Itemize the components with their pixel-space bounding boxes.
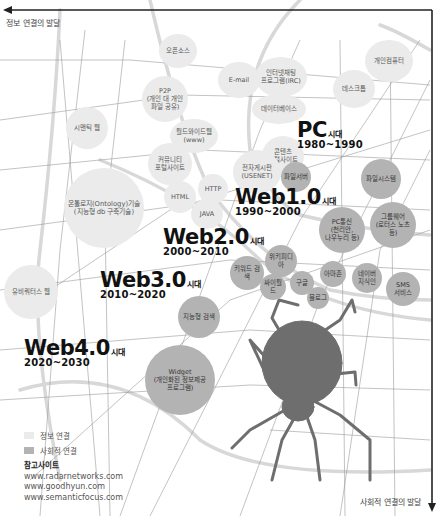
era-web4: Web4.0시대 2020~2030 (24, 336, 125, 368)
bubble-label: 개인컴퓨터 (374, 57, 404, 65)
legend-item-info: 정보 연결 (24, 428, 77, 443)
bubble-widget: Widget (개인화된 정보제공 프로그램) (145, 345, 215, 415)
bubble-p2p: P2P (개인 대 개인 파일 공유) (142, 76, 188, 122)
bubble-label: 블로그 (309, 294, 327, 302)
era-suffix: 시대 (111, 348, 125, 357)
bubble-label: 지능형 검색 (183, 313, 215, 321)
legend-item-social: 사회적 연결 (24, 443, 77, 458)
bubble-label: HTTP (205, 185, 222, 193)
bubble-label: 파일서버 (284, 173, 308, 181)
legend: 정보 연결 사회적 연결 (24, 428, 77, 458)
legend-swatch-social (24, 447, 34, 454)
bubble-sms-service: SMS 서비스 (386, 272, 420, 306)
bubble-label: 데이터베이스 (261, 105, 297, 113)
era-suffix: 시대 (187, 280, 201, 289)
bubble-blog: 블로그 (307, 287, 329, 309)
bubble-cyworld: 싸이월드 (260, 274, 286, 300)
era-web2: Web2.0시대 2000~2010 (163, 225, 264, 257)
bubble-label: SMS 서비스 (394, 281, 412, 297)
bubble-label: P2P (개인 대 개인 파일 공유) (147, 87, 184, 111)
bubble-label: 네이버 지식인 (358, 270, 376, 286)
bubble-label: 파일시스템 (366, 175, 396, 183)
legend-swatch-info (24, 432, 34, 439)
bubble-label: 싸이월드 (262, 279, 284, 295)
bubble-label: 키워드 검색 (232, 265, 262, 281)
bubble-label: 오픈소스 (166, 47, 190, 55)
references: 참고사이트 www.radarnetworks.com www.goodhyun… (24, 461, 123, 503)
bubble-label: 온톨로지(Ontology)기술 (지능형 db 구축기술) (68, 200, 140, 217)
bubble-open-source: 오픈소스 (159, 34, 197, 68)
era-suffix: 시대 (328, 130, 342, 139)
bubble-label: 데스크톱 (342, 85, 366, 93)
bubble-community-portal: 커뮤니티 포털사이트 (148, 143, 192, 185)
bubble-email: E-mail (218, 62, 260, 98)
bubble-label: 아마존 (324, 270, 342, 278)
x-axis-label: 정보 연결의 발달 (6, 17, 60, 28)
bubble-label: E-mail (229, 76, 249, 84)
bubble-label: 그룹웨어 (로터스 노츠 등) (372, 213, 414, 237)
legend-label: 사회적 연결 (40, 445, 77, 456)
y-axis-label: 사회적 연결의 발달 (360, 496, 421, 507)
bubble-personal-computer: 개인컴퓨터 (365, 40, 413, 82)
bubble-desktop: 데스크톱 (333, 70, 375, 108)
reference-link[interactable]: www.goodhyun.com (24, 482, 123, 493)
era-suffix: 시대 (322, 197, 336, 206)
bubble-label: 유비쿼터스 웹 (12, 288, 50, 296)
era-pc: PC시대 1980~1990 (297, 118, 363, 150)
bubble-label: JAVA (200, 210, 214, 218)
bubble-label: 전자게시판 (USENET) (241, 164, 272, 180)
bubble-label: Widget (개인화된 정보제공 프로그램) (154, 368, 207, 392)
reference-link[interactable]: www.radarnetworks.com (24, 472, 123, 483)
bubble-label: 인터넷채팅 프로그램(IRC) (261, 69, 301, 85)
bubble-label: 위키피디아 (267, 253, 295, 269)
bubble-label: 구글 (296, 279, 308, 287)
references-title: 참고사이트 (24, 461, 123, 472)
bubble-label: PC통신 (천리안, 나우누리 등) (325, 218, 360, 242)
bubble-wikipedia: 위키피디아 (265, 245, 297, 277)
era-web3: Web3.0시대 2010~2020 (100, 268, 201, 300)
bubble-semantic-web: 시맨틱 웹 (66, 107, 108, 149)
era-years: 1980~1990 (297, 139, 363, 150)
era-suffix: 시대 (250, 237, 264, 246)
bubble-label: HTML (171, 193, 189, 201)
bubble-ontology: 온톨로지(Ontology)기술 (지능형 db 구축기술) (64, 168, 144, 248)
legend-label: 정보 연결 (40, 430, 70, 441)
era-web1: Web1.0시대 1990~2000 (235, 185, 336, 217)
reference-link[interactable]: www.semanticfocus.com (24, 493, 123, 504)
bubble-amazon: 아마존 (320, 261, 346, 287)
bubble-keyword-search: 키워드 검색 (230, 256, 264, 290)
bubble-label: 커뮤니티 포털사이트 (155, 156, 185, 172)
bubble-label: 월드와이드웹 (www) (176, 128, 212, 144)
bubble-irc: 인터넷채팅 프로그램(IRC) (255, 57, 307, 97)
bubble-ubiquitous-web: 유비쿼터스 웹 (4, 265, 58, 319)
bubble-label: 시맨틱 웹 (74, 124, 100, 132)
bubble-intelligent-search: 지능형 검색 (178, 296, 220, 338)
bubble-naver-kin: 네이버 지식인 (352, 263, 382, 293)
bubble-groupware: 그룹웨어 (로터스 노츠 등) (370, 202, 416, 248)
bubble-file-system: 파일시스템 (361, 159, 401, 199)
